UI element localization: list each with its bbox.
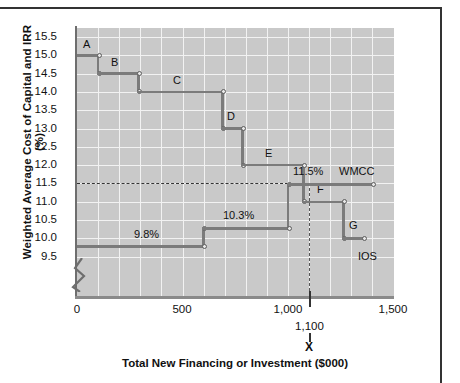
gridline-h: [77, 92, 394, 93]
wmcc-node: [287, 226, 292, 231]
wmcc-intersection-guide: [77, 183, 288, 184]
gridline-v: [119, 28, 120, 296]
y-axis-title: Weighted Average Cost of Capital and IRR…: [21, 17, 45, 267]
y-axis-break-icon: [68, 258, 90, 292]
x-tick-label: 0: [47, 303, 107, 315]
ios-step-g: [342, 237, 363, 240]
ios-drop-d-e: [241, 127, 244, 166]
ios-label-d: D: [227, 110, 235, 122]
x-tick-label: 1,500: [363, 303, 423, 315]
wmcc-rise-2-3: [287, 183, 290, 228]
gridline-v: [183, 28, 184, 296]
ios-label-c: C: [173, 74, 181, 86]
ios-curve-label: IOS: [358, 250, 377, 262]
ios-label-b: B: [111, 56, 118, 68]
ios-node: [342, 199, 347, 204]
gridline-v: [351, 28, 352, 296]
wmcc-node: [371, 182, 376, 187]
optimal-budget-marker: X: [305, 340, 313, 354]
ios-step-d: [221, 127, 242, 130]
ios-step-c: [137, 91, 223, 94]
gridline-h: [77, 55, 394, 56]
wmcc-step-1: [77, 245, 204, 248]
gridline-v: [288, 28, 289, 296]
ios-label-e: E: [265, 147, 272, 159]
ios-step-a: [77, 54, 98, 57]
wmcc-cost-label-2: 10.3%: [223, 209, 254, 221]
x-tick-label: 500: [152, 303, 212, 315]
page-rule-right: [440, 7, 442, 383]
ios-label-a: A: [83, 38, 90, 50]
gridline-v: [225, 28, 226, 296]
ios-step-f: [302, 201, 343, 204]
wmcc-cost-label-1: 9.8%: [134, 228, 159, 240]
plot-area: A B C D E: [77, 28, 394, 296]
ios-drop-f-g: [342, 201, 345, 240]
ios-node: [97, 53, 102, 58]
gridline-h: [77, 37, 394, 38]
gridline-h: [77, 147, 394, 148]
ios-wmcc-chart: A B C D E: [0, 0, 440, 383]
wmcc-node: [202, 244, 207, 249]
x-axis-line: [75, 296, 394, 299]
x-axis-title: Total New Financing or Investment ($000): [60, 357, 410, 369]
figure-page-frame: A B C D E: [0, 0, 460, 383]
gridline-v: [267, 28, 268, 296]
wmcc-curve-label: WMCC: [339, 165, 374, 177]
gridline-v: [140, 28, 141, 296]
gridline-h: [77, 110, 394, 111]
ios-label-g: G: [349, 219, 358, 231]
wmcc-step-3: [287, 183, 373, 186]
wmcc-step-2: [202, 227, 288, 230]
wmcc-cost-label-3: 11.5%: [293, 165, 323, 177]
optimal-budget-value: 1,100: [287, 320, 332, 332]
gridline-h: [77, 257, 394, 258]
ios-drop-c-d: [221, 91, 224, 130]
gridline-v: [246, 28, 247, 296]
ios-node: [137, 71, 142, 76]
gridline-v: [330, 28, 331, 296]
optimal-budget-tick: [309, 291, 311, 307]
gridline-v: [204, 28, 205, 296]
gridline-v: [161, 28, 162, 296]
ios-node: [362, 236, 367, 241]
ios-step-b: [97, 72, 138, 75]
